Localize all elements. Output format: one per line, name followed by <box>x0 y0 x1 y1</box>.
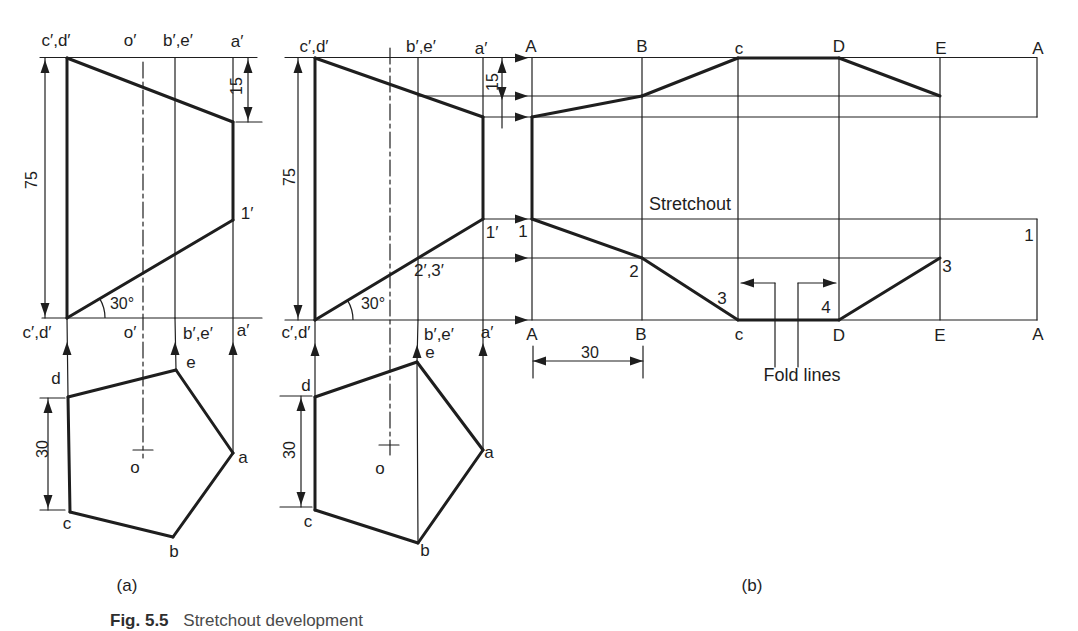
label-b-point-23prime: 2′,3′ <box>414 261 444 280</box>
label-dev-bottom-label-B: B <box>635 325 646 344</box>
label-dev-bottom-label-A1: A <box>526 325 538 344</box>
transfer-arrow-top-be <box>515 92 528 101</box>
a-30-arrow-up <box>44 400 53 413</box>
label-b-bottom-label-cd: c′,d′ <box>281 323 310 342</box>
label-b-point-1prime: 1′ <box>486 223 499 242</box>
label-b-bottom-label-be: b′,e′ <box>424 325 454 344</box>
label-b-top-label-cd: c′,d′ <box>299 37 328 56</box>
label-dev-point-3-right: 3 <box>942 257 951 276</box>
b-projection-arrow-a <box>479 343 488 356</box>
dev-cut-edge-12 <box>532 219 642 258</box>
a-top-cut-edge <box>67 58 233 122</box>
b-pentagon-bc <box>315 510 418 543</box>
fold-leader-arrow-right <box>823 279 836 288</box>
label-b-dim-30-pentagon: 30 <box>281 441 298 459</box>
label-dev-top-label-A2: A <box>1032 39 1044 58</box>
label-b-pent-label-e: e <box>425 343 434 362</box>
label-a-pent-label-o: o <box>130 458 139 477</box>
a-pentagon-de <box>68 370 176 397</box>
a-angle-arc <box>100 298 105 318</box>
b-projection-arrow-e <box>413 345 422 358</box>
label-dev-point-1-left: 1 <box>518 222 527 241</box>
label-dev-point-3-left: 3 <box>717 289 726 308</box>
label-dev-top-label-B: B <box>636 37 647 56</box>
figure-number: Fig. 5.5 <box>110 611 169 630</box>
label-fold-lines-label: Fold lines <box>763 365 840 385</box>
label-b-pent-label-d: d <box>301 376 310 395</box>
label-caption-a: (a) <box>117 576 138 595</box>
dev-top-edge-DE <box>839 58 940 96</box>
label-a-top-label-be: b′,e′ <box>163 31 193 50</box>
b-pentagon-de <box>315 362 417 397</box>
transfer-arrow-top-a <box>515 113 528 122</box>
b-pentagon-ab <box>418 450 483 543</box>
a-30-arrow-down <box>44 495 53 508</box>
label-dev-bottom-label-E: E <box>934 326 945 345</box>
label-dev-bottom-label-D: D <box>833 326 845 345</box>
dev-cut-edge-D3 <box>839 258 940 320</box>
label-b-dim-15: 15 <box>484 73 501 91</box>
label-a-dim-30: 30 <box>34 440 51 458</box>
transfer-arrow-base <box>515 316 528 325</box>
label-b-bottom-label-a: a′ <box>481 323 494 342</box>
a-30deg-cut-edge <box>67 220 233 318</box>
label-a-dim-75: 75 <box>23 171 40 189</box>
label-a-angle-30: 30° <box>110 295 134 312</box>
a-15-arrow-up <box>244 60 253 73</box>
label-a-top-label-cd: c′,d′ <box>41 31 70 50</box>
label-a-pent-label-a: a <box>238 448 248 467</box>
a-projection-arrow-e <box>171 342 180 355</box>
label-stretchout-label: Stretchout <box>649 194 731 214</box>
label-b-top-label-be: b′,e′ <box>406 37 436 56</box>
b-top-cut-edge <box>315 58 483 117</box>
b-75-arrow-up <box>294 60 303 73</box>
b-inner-eb-line <box>417 362 418 543</box>
a-pentagon-bc <box>70 512 173 537</box>
label-a-dim-15: 15 <box>228 77 245 95</box>
b-30-arrow-up <box>297 398 306 411</box>
label-a-pent-label-b: b <box>169 542 178 561</box>
a-proj-d <box>67 318 68 397</box>
fold-leader-arrow-left <box>741 279 754 288</box>
a-projection-arrow-a <box>229 342 238 355</box>
label-a-pent-label-c: c <box>63 514 72 533</box>
a-pentagon-cd <box>68 397 70 512</box>
figure-caption: Fig. 5.5 Stretchout development <box>110 611 750 631</box>
label-dev-bottom-label-A2: A <box>1032 325 1044 344</box>
label-dev-top-label-E: E <box>935 39 946 58</box>
label-a-bottom-label-cd: c′,d′ <box>22 323 51 342</box>
b-30-arrow-down <box>297 492 306 505</box>
label-dev-point-4: 4 <box>821 298 830 317</box>
label-a-point-1prime: 1′ <box>241 204 254 223</box>
label-dev-top-label-c: c <box>735 39 744 58</box>
label-dev-dim-30: 30 <box>581 344 599 361</box>
label-dev-point-2: 2 <box>629 262 638 281</box>
label-b-dim-75: 75 <box>281 168 298 186</box>
a-pentagon-ab <box>173 453 233 537</box>
label-dev-point-1-right: 1 <box>1024 226 1033 245</box>
a-75-arrow-down <box>41 303 50 316</box>
label-dev-bottom-label-c: c <box>735 325 744 344</box>
label-b-pent-label-c: c <box>304 512 313 531</box>
b-pentagon-ea <box>417 362 483 450</box>
label-dev-top-label-D: D <box>833 37 845 56</box>
label-a-pent-label-d: d <box>51 369 60 388</box>
dev-top-edge-AB <box>532 96 642 117</box>
label-b-pent-label-o: o <box>375 459 384 478</box>
a-15-arrow-down <box>244 107 253 120</box>
label-a-bottom-label-a: a′ <box>237 321 250 340</box>
a-75-arrow-up <box>41 60 50 73</box>
a-projection-arrow-d <box>63 342 72 355</box>
b-30deg-cut-edge <box>315 219 483 320</box>
dev-30-arrow-right <box>630 357 643 366</box>
b-angle-arc <box>348 300 353 320</box>
label-a-top-label-a: a′ <box>231 32 244 51</box>
label-caption-b: (b) <box>742 576 763 595</box>
label-b-pent-label-b: b <box>420 541 429 560</box>
label-a-bottom-label-be: b′,e′ <box>183 324 213 343</box>
label-b-top-label-a: a′ <box>475 39 488 58</box>
dev-top-edge-Bc <box>642 58 738 96</box>
figure-caption-text: Stretchout development <box>183 611 363 630</box>
